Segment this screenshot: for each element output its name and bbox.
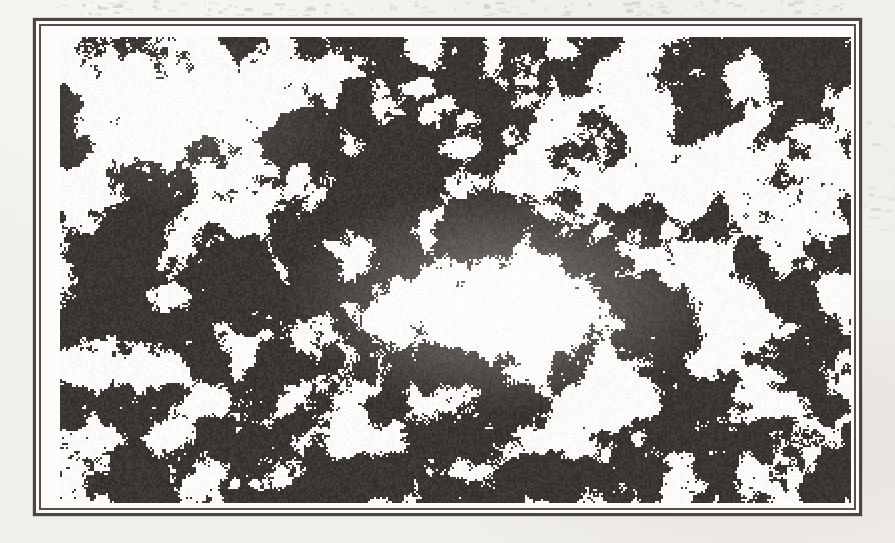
scanner-bleed-top-artifact [52, 0, 852, 16]
dithered-texture-image [60, 37, 851, 503]
figure-frame-outer-rule [33, 18, 862, 516]
scanner-bleed-right-artifact [862, 120, 895, 230]
texture-plate [60, 37, 851, 503]
scanned-page [0, 0, 895, 543]
figure-frame-inner-rule [39, 24, 856, 510]
